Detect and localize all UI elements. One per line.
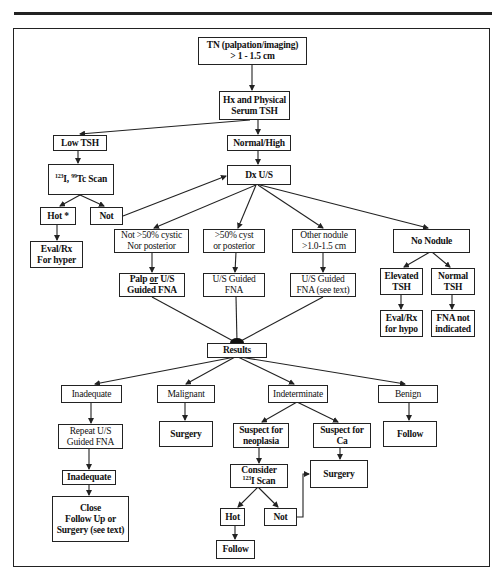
node-text: Follow — [222, 544, 248, 555]
node-text: Suspect for — [239, 425, 282, 436]
node-dx-us: Dx U/S — [227, 165, 291, 185]
node-text: Indeterminate — [273, 389, 323, 400]
node-text: Normal — [438, 271, 468, 282]
node-text: Guided FNA — [127, 285, 177, 296]
node-consider-scan: Consider 123I Scan — [230, 464, 288, 488]
node-text: Not — [273, 512, 287, 523]
node-hx-physical: Hx and Physical Serum TSH — [219, 91, 290, 120]
node-text: Ca — [336, 436, 347, 447]
node-text: Tc Scan — [77, 174, 107, 184]
node-text: Dx U/S — [245, 170, 273, 181]
node-text: TSH — [444, 282, 462, 293]
node-hot-consider: Hot — [220, 508, 245, 526]
node-text: Inadequate — [67, 472, 111, 483]
node-text: Normal/High — [233, 138, 285, 149]
node-text: U/S — [158, 274, 174, 284]
node-text: FNA not — [436, 313, 469, 324]
node-normal-tsh: Normal TSH — [431, 268, 475, 295]
node-text: Results — [223, 345, 251, 356]
node-low-tsh: Low TSH — [53, 135, 107, 151]
node-eval-hyper: Eval/Rx For hyper — [30, 241, 83, 268]
node-text: Hx and Physical — [223, 95, 286, 106]
node-not-hot-scan: Not — [90, 207, 123, 225]
node-text: Surgery — [323, 469, 354, 480]
node-text: U/S Guided — [212, 274, 255, 285]
node-indeterminate: Indeterminate — [268, 385, 328, 403]
node-other-nodule: Other nodule >1.0-1.5 cm — [292, 229, 356, 253]
node-text: Nor posterior — [127, 241, 175, 252]
node-text: Eval/Rx — [386, 313, 417, 324]
node-elevated-tsh: Elevated TSH — [380, 268, 423, 295]
node-text: Hot * — [47, 211, 68, 222]
node-normal-high: Normal/High — [227, 135, 291, 151]
node-text: Not >50% cystic — [121, 230, 182, 241]
node-not-cystic: Not >50% cystic Nor posterior — [114, 229, 189, 253]
node-results: Results — [207, 343, 267, 358]
node-hot-scan: Hot * — [40, 207, 76, 225]
node-text: neoplasia — [243, 436, 279, 447]
node-text: Malignant — [167, 389, 204, 400]
node-suspect-neoplasia: Suspect for neoplasia — [233, 423, 289, 448]
node-text: FNA (see text) — [296, 285, 349, 296]
node-text: >1.0-1.5 cm — [302, 241, 346, 252]
node-text: Serum TSH — [231, 106, 277, 117]
node-text: 123I Scan — [243, 476, 276, 487]
node-text: Eval/Rx — [41, 244, 72, 255]
node-no-nodule: No Nodule — [393, 229, 470, 253]
node-cystic: >50% cyst or posterior — [203, 229, 265, 253]
node-text: Guided FNA — [67, 437, 114, 448]
node-text: Suspect for — [320, 425, 363, 436]
node-text: FNA — [225, 285, 243, 296]
node-text: >50% cyst — [215, 230, 254, 241]
node-fna-not-indicated: FNA not indicated — [431, 310, 475, 337]
node-text: Palp — [130, 274, 150, 284]
node-text: No Nodule — [411, 236, 452, 247]
node-text: Close — [80, 503, 101, 514]
superscript: 123 — [243, 475, 251, 481]
node-text: Palp or U/S — [130, 274, 175, 285]
node-text: U/S Guided — [301, 274, 344, 285]
node-text: Hot — [225, 512, 240, 523]
node-text: Other nodule — [300, 230, 347, 241]
node-text: TSH — [392, 282, 410, 293]
node-text: Follow — [397, 429, 423, 440]
node-text: for hypo — [385, 324, 418, 335]
node-text: Repeat U/S — [70, 426, 112, 437]
node-text: Surgery — [170, 429, 201, 440]
node-us-guided-fna: U/S Guided FNA — [203, 273, 265, 297]
node-isotope-scan: 123I, 99Tc Scan — [48, 164, 114, 195]
node-text: I Scan — [251, 476, 275, 486]
node-surgery-ca: Surgery — [310, 460, 368, 488]
node-text: > 1 - 1.5 cm — [230, 51, 274, 62]
node-text: or — [150, 274, 158, 284]
node-close-follow-up: Close Follow Up or Surgery (see text) — [52, 496, 129, 542]
node-text: TN (palpation/imaging) — [207, 40, 298, 51]
node-not-consider: Not — [264, 508, 297, 526]
node-malignant: Malignant — [157, 385, 215, 403]
node-text: Follow Up or — [65, 514, 116, 525]
node-text: For hyper — [37, 255, 76, 266]
node-text: Not — [99, 211, 113, 222]
node-text: Inadequate — [72, 389, 112, 400]
node-text: indicated — [435, 324, 471, 335]
node-suspect-ca: Suspect for Ca — [313, 423, 371, 448]
node-text: or posterior — [213, 241, 255, 252]
node-text: Low TSH — [61, 138, 99, 149]
node-tn-size: TN (palpation/imaging) > 1 - 1.5 cm — [198, 37, 307, 65]
node-us-guided-fna-see-text: U/S Guided FNA (see text) — [290, 273, 356, 297]
node-repeat-fna: Repeat U/S Guided FNA — [58, 424, 123, 449]
node-surgery-malignant: Surgery — [159, 421, 213, 447]
node-palp-fna: Palp or U/S Guided FNA — [119, 273, 185, 297]
node-text: 123I, 99Tc Scan — [55, 174, 107, 185]
node-inadequate-repeat: Inadequate — [62, 470, 116, 485]
node-benign: Benign — [378, 385, 438, 403]
node-follow-benign: Follow — [383, 421, 437, 447]
node-text: Benign — [395, 389, 421, 400]
node-inadequate: Inadequate — [61, 385, 122, 403]
node-text: Elevated — [385, 271, 419, 282]
node-follow-hot: Follow — [216, 540, 255, 559]
node-eval-hypo: Eval/Rx for hypo — [380, 310, 423, 337]
node-text: Surgery (see text) — [57, 525, 125, 536]
